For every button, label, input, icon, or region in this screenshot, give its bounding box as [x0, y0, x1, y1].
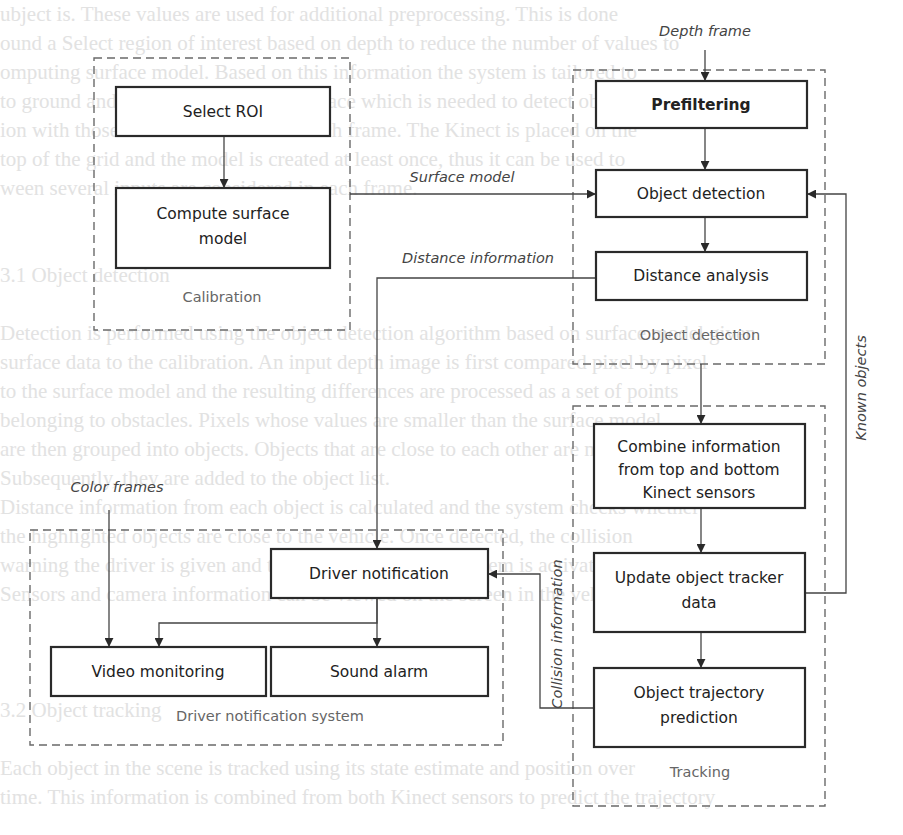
select-roi-label: Select ROI: [183, 103, 263, 121]
update-tracker-label-line1: Update object tracker: [615, 569, 784, 587]
trajectory-label-line1: Object trajectory: [634, 684, 765, 702]
arrow-collision-to-driver-notification: [489, 574, 594, 708]
color-frames-label: Color frames: [70, 479, 163, 495]
surface-model-label: Surface model: [410, 169, 515, 185]
select-roi-box: Select ROI: [116, 87, 330, 136]
arrow-distance-to-driver-notification: [377, 278, 596, 548]
object-detection-label: Object detection: [637, 185, 766, 203]
known-objects-label: Known objects: [853, 335, 869, 441]
combine-information-label-line1: Combine information: [617, 438, 780, 456]
sound-alarm-label: Sound alarm: [330, 663, 428, 681]
distance-information-label: Distance information: [402, 250, 554, 266]
video-monitoring-box: Video monitoring: [51, 647, 266, 696]
tracking-group-label: Tracking: [669, 764, 730, 780]
update-object-tracker-box: Update object tracker data: [594, 553, 805, 632]
video-monitoring-label: Video monitoring: [92, 663, 225, 681]
object-detection-group-label: Object detection: [640, 327, 760, 343]
update-tracker-label-line2: data: [682, 594, 717, 612]
driver-notification-system-label: Driver notification system: [176, 708, 364, 724]
system-flow-diagram: Calibration Object detection Tracking Dr…: [0, 0, 903, 835]
trajectory-label-line2: prediction: [660, 709, 738, 727]
combine-information-label-line3: Kinect sensors: [643, 484, 756, 502]
calibration-group-label: Calibration: [183, 289, 262, 305]
prefiltering-box: Prefiltering: [596, 81, 807, 128]
combine-information-box: Combine information from top and bottom …: [594, 424, 805, 508]
arrow-notification-to-video: [159, 598, 377, 646]
object-detection-box: Object detection: [596, 170, 807, 217]
collision-information-label: Collision information: [549, 559, 565, 708]
driver-notification-box: Driver notification: [271, 549, 488, 598]
distance-analysis-label: Distance analysis: [633, 267, 768, 285]
driver-notification-label: Driver notification: [309, 565, 449, 583]
depth-frame-label: Depth frame: [659, 23, 751, 39]
combine-information-label-line2: from top and bottom: [618, 461, 779, 479]
distance-analysis-box: Distance analysis: [596, 252, 807, 300]
compute-surface-model-label-line2: model: [199, 230, 247, 248]
sound-alarm-box: Sound alarm: [271, 647, 488, 696]
compute-surface-model-label-line1: Compute surface: [157, 205, 290, 223]
prefiltering-label: Prefiltering: [651, 96, 750, 114]
object-trajectory-prediction-box: Object trajectory prediction: [594, 668, 805, 747]
compute-surface-model-box: Compute surface model: [116, 188, 330, 268]
